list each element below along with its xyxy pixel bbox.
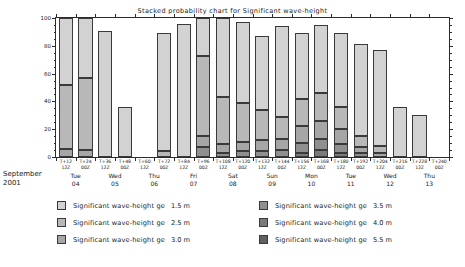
bar-segment: [59, 149, 73, 157]
stacked-bar: [177, 18, 191, 157]
day-name: Tue: [346, 172, 356, 180]
x-axis-tick-top: [154, 14, 155, 18]
bar-segment: [157, 33, 171, 151]
day-number: 06: [149, 180, 160, 188]
x-axis-tick-top: [292, 14, 293, 18]
x-axis-tick-top: [115, 14, 116, 18]
x-axis-day-label: Mon10: [305, 172, 318, 187]
bar-segment: [236, 103, 250, 142]
y-axis-tick-right: [449, 18, 453, 19]
x-axis-tick-top: [390, 14, 391, 18]
legend-item[interactable]: Significant wave-height ge1.5 m: [57, 197, 190, 214]
legend-item[interactable]: Significant wave-height ge4.0 m: [259, 214, 392, 231]
y-axis-minor-tick: [54, 39, 57, 40]
x-axis-tick-top: [233, 14, 234, 18]
legend-label: Significant wave-height ge: [275, 219, 367, 227]
x-axis-lead-time-label: T+84: [178, 159, 190, 164]
x-axis-lead-time-label: T+156: [294, 159, 309, 164]
x-axis-day-label: Fri07: [190, 172, 198, 187]
y-axis-minor-tick: [54, 108, 57, 109]
y-axis-tick-right: [449, 74, 453, 75]
stacked-bar: [275, 18, 289, 157]
y-axis-minor-tick-right: [449, 67, 452, 68]
x-axis-tick-top: [174, 14, 175, 18]
legend-swatch: [259, 235, 268, 244]
y-axis-minor-tick: [54, 67, 57, 68]
bar-segment: [216, 144, 230, 152]
y-axis-minor-tick: [54, 60, 57, 61]
y-axis-minor-tick-right: [449, 32, 452, 33]
month-year-label: September 2001: [3, 170, 42, 187]
legend-threshold-value: 3.5 m: [373, 202, 392, 210]
y-axis-minor-tick: [54, 143, 57, 144]
x-axis-tick-top: [95, 14, 96, 18]
stacked-bar: [295, 18, 309, 157]
legend-item[interactable]: Significant wave-height ge5.5 m: [259, 231, 392, 248]
bar-segment: [314, 121, 328, 139]
y-axis-minor-tick: [54, 136, 57, 137]
bar-segment: [295, 126, 309, 143]
y-axis-label: 100: [41, 15, 52, 21]
y-axis-minor-tick: [54, 88, 57, 89]
x-axis-day-label: Sat08: [228, 172, 238, 187]
x-axis-tick-top: [272, 14, 273, 18]
stacked-bar: [354, 18, 368, 157]
bar-segment: [196, 147, 210, 157]
bar-segment: [295, 33, 309, 98]
day-name: Thu: [149, 172, 160, 180]
y-axis-minor-tick: [54, 25, 57, 26]
x-axis-hour-label: 00Z: [317, 165, 326, 170]
x-axis-hour-label: 12Z: [258, 165, 267, 170]
y-axis-minor-tick: [54, 94, 57, 95]
bar-segment: [196, 56, 210, 137]
legend-label: Significant wave-height ge: [275, 236, 367, 244]
legend-swatch: [259, 218, 268, 227]
y-axis-minor-tick-right: [449, 122, 452, 123]
stacked-bar: [255, 18, 269, 157]
y-axis-tick: [52, 129, 56, 130]
x-axis-lead-time-label: T+180: [333, 159, 348, 164]
legend-swatch: [259, 201, 268, 210]
day-name: Thu: [424, 172, 435, 180]
y-axis-minor-tick-right: [449, 143, 452, 144]
x-axis-lead-time-label: T+12: [60, 159, 72, 164]
bar-segment: [354, 153, 368, 157]
x-axis-tick-top: [331, 14, 332, 18]
stacked-bar: [334, 18, 348, 157]
x-axis-hour-label: 00Z: [396, 165, 405, 170]
x-axis-lead-time-label: T+120: [235, 159, 250, 164]
legend-item[interactable]: Significant wave-height ge2.5 m: [57, 214, 190, 231]
bar-segment: [275, 26, 289, 116]
stacked-bar: [78, 18, 92, 157]
x-axis-lead-time-label: T+108: [216, 159, 231, 164]
x-axis-hour-label: 00Z: [278, 165, 287, 170]
x-axis-lead-time-label: T+24: [79, 159, 91, 164]
day-number: 04: [71, 180, 81, 188]
x-axis-lead-time-label: T+48: [119, 159, 131, 164]
x-axis-tick-top: [351, 14, 352, 18]
x-axis-day-label: Wed12: [384, 172, 397, 187]
stacked-bar: [98, 18, 112, 157]
bar-segment: [334, 153, 348, 157]
x-axis-tick-top: [135, 14, 136, 18]
x-axis-day-label: Sun09: [266, 172, 277, 187]
bar-segment: [314, 93, 328, 121]
day-name: Sat: [228, 172, 238, 180]
bar-segment: [373, 153, 387, 157]
bar-segment: [334, 33, 348, 107]
x-axis-hour-label: 00Z: [435, 165, 444, 170]
day-number: 13: [424, 180, 435, 188]
y-axis-label: 80: [44, 43, 51, 49]
y-axis-minor-tick-right: [449, 53, 452, 54]
x-axis-lead-time-label: T+168: [314, 159, 329, 164]
x-axis-tick-top: [194, 14, 195, 18]
y-axis-tick-right: [449, 129, 453, 130]
stacked-bar: [59, 18, 73, 157]
legend-item[interactable]: Significant wave-height ge3.0 m: [57, 231, 190, 248]
x-axis-tick-top: [370, 14, 371, 18]
bar-segment: [314, 139, 328, 150]
x-axis-hour-label: 00Z: [199, 165, 208, 170]
bar-segment: [373, 50, 387, 146]
legend-item[interactable]: Significant wave-height ge3.5 m: [259, 197, 392, 214]
stacked-bar: [157, 18, 171, 157]
